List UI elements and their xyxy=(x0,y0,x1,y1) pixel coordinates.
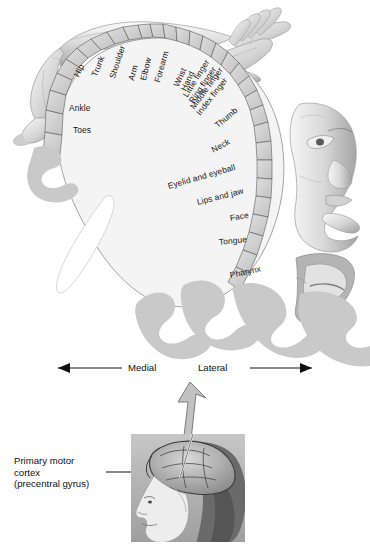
medial-label: Medial xyxy=(128,362,156,373)
band-label-ankle: Ankle xyxy=(69,104,90,112)
primary-motor-cortex-callout: Primary motor cortex (precentral gyrus) xyxy=(14,455,109,490)
medial-arrow xyxy=(58,363,122,373)
band-label-toes: Toes xyxy=(73,126,91,134)
figure-canvas: HipTrunkShoulderArmElbowForearmWristHand… xyxy=(0,0,370,545)
lateral-label: Lateral xyxy=(198,362,227,373)
lateral-arrow xyxy=(250,363,312,373)
face-illustration xyxy=(290,103,360,252)
head-photo-inset xyxy=(131,424,246,544)
